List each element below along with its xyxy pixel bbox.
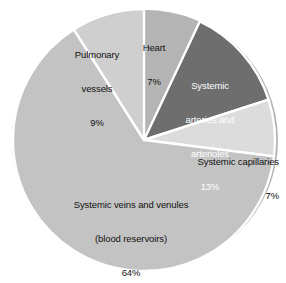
pie-chart: Heart 7% Pulmonary vessels 9% Systemic a… — [0, 0, 286, 283]
slice-label-veins-line2: (blood reservoirs) — [42, 233, 220, 244]
slice-label-arteries-line2: arteries and — [174, 114, 246, 125]
slice-label-capillaries-name: Systemic capillaries — [152, 156, 279, 167]
slice-label-pulmonary-line2: vessels — [62, 83, 132, 94]
slice-label-systemic-veins: Systemic veins and venules (blood reserv… — [42, 177, 220, 283]
slice-label-heart-name: Heart — [131, 42, 177, 53]
slice-label-veins-value: 64% — [42, 267, 220, 278]
slice-label-pulmonary-vessels: Pulmonary vessels 9% — [62, 27, 132, 150]
slice-label-pulmonary-line1: Pulmonary — [62, 49, 132, 60]
slice-label-arteries-line1: Systemic — [174, 80, 246, 91]
slice-label-pulmonary-value: 9% — [62, 117, 132, 128]
slice-label-veins-line1: Systemic veins and venules — [42, 199, 220, 210]
slice-label-heart: Heart 7% — [131, 20, 177, 110]
slice-label-heart-value: 7% — [131, 76, 177, 87]
